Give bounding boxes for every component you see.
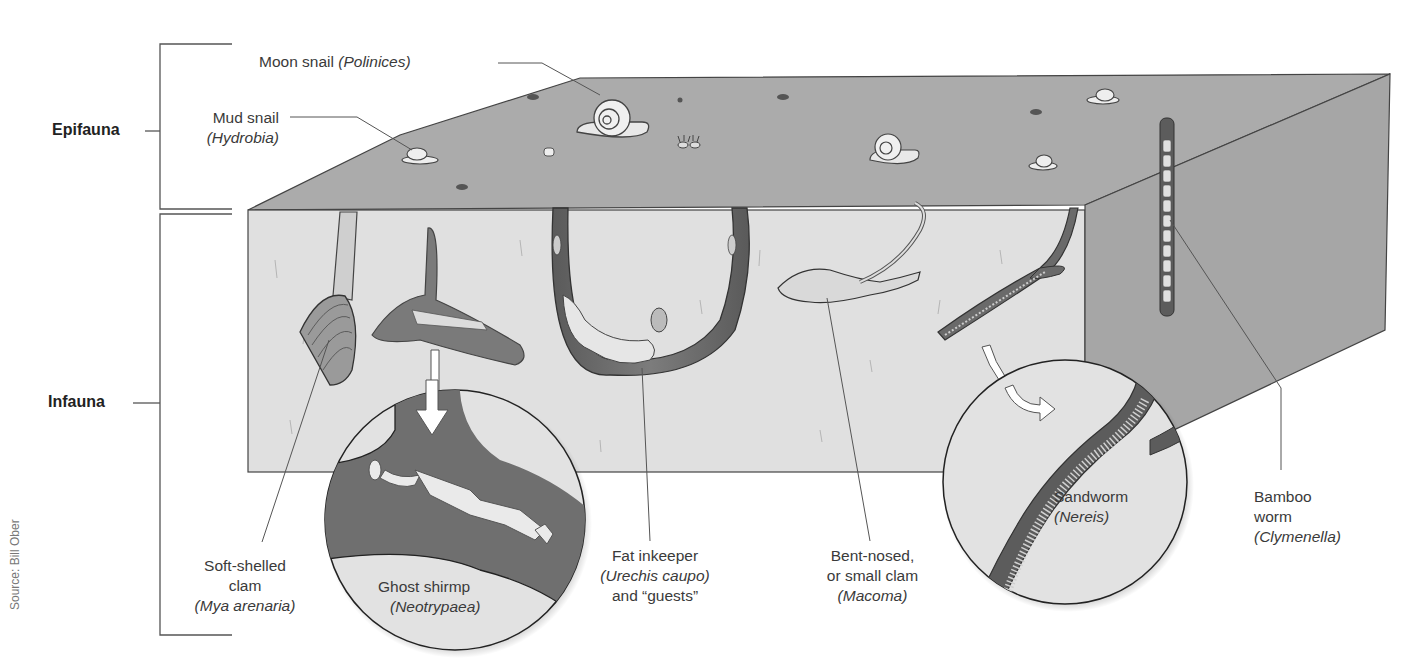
mud-snail-label: Mud snail (Hydrobia) [183,108,279,148]
bamboo-worm-label: Bamboo worm (Clymenella) [1254,487,1341,547]
fat-innkeeper-label: Fat inkeeper (Urechis caupo) and “guests… [585,546,725,606]
bamboo-worm-icon [1160,118,1174,316]
soft-shelled-clam-label: Soft-shelled clam (Mya arenaria) [160,556,330,616]
source-credit: Source: Bill Ober [8,519,22,610]
ghost-shrimp-label: Ghost shirmp (Neotrypaea) [378,577,480,617]
epifauna-label: Epifauna [52,121,120,139]
bent-nosed-clam-label: Bent-nosed, or small clam (Macoma) [805,546,940,606]
diagram-canvas: Epifauna Infauna Moon snail (Polinices) … [0,0,1408,661]
sandworm-label: Sandworm (Nereis) [1054,487,1128,527]
infauna-label: Infauna [48,393,105,411]
moon-snail-label: Moon snail (Polinices) [259,52,411,72]
